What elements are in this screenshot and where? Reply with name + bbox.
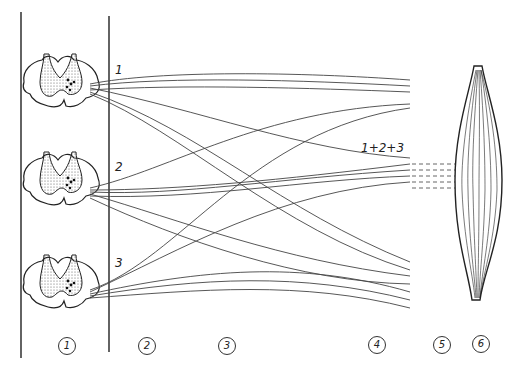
region-marker-2: 2 <box>138 337 156 355</box>
region-marker-1: 1 <box>58 337 76 355</box>
dashed-end-branches <box>412 164 455 188</box>
muscle <box>455 66 502 300</box>
segment-label-3: 3 <box>115 256 123 270</box>
region-marker-3: 3 <box>218 337 236 355</box>
cord-segment-2 <box>23 152 99 205</box>
cord-segment-3 <box>23 255 99 308</box>
diagram-svg <box>0 0 514 371</box>
cord-segment-1 <box>23 54 99 107</box>
segment-label-1: 1 <box>115 63 123 77</box>
diagram-canvas: 1 2 3 1+2+3 1 2 3 4 5 6 <box>0 0 514 371</box>
nerve-fibers <box>90 74 410 308</box>
region-marker-5: 5 <box>433 336 451 354</box>
segment-label-2: 2 <box>115 160 123 174</box>
region-marker-4: 4 <box>368 336 386 354</box>
convergence-label: 1+2+3 <box>361 141 404 155</box>
region-marker-6: 6 <box>472 335 490 353</box>
